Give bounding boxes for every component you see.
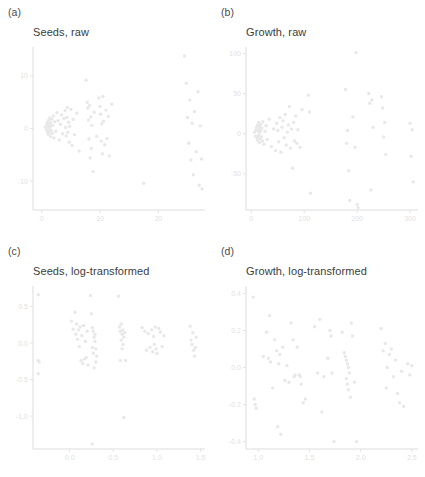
svg-text:300: 300 [404,215,416,222]
svg-text:0: 0 [237,130,241,137]
svg-text:1.0: 1.0 [253,454,263,461]
svg-text:0.2: 0.2 [231,327,241,334]
panel-b-scatter: 100500-500100200300 [246,47,418,210]
panel-c-plot-area: 0.50.0-0.5-1.00.00.51.01.5 [33,286,205,449]
panel-c: (c) Seeds, log-transformed 0.50.0-0.5-1.… [0,239,212,477]
panel-d-title: Growth, log-transformed [246,265,367,277]
svg-text:0: 0 [249,215,253,222]
figure-residual-diagnostics: (a) Seeds, raw 100-1001020 (b) Growth, r… [0,0,425,477]
panel-b-plot-area: 100500-500100200300 [246,47,418,210]
svg-text:0.0: 0.0 [65,454,75,461]
panel-d: (d) Growth, log-transformed 0.40.20.0-0.… [213,239,425,477]
svg-text:-10: -10 [18,178,28,185]
panel-d-tag: (d) [221,245,234,257]
panel-a-plot-area: 100-1001020 [33,47,205,210]
panel-a-tag: (a) [8,6,21,18]
svg-text:0.5: 0.5 [108,454,118,461]
svg-text:1.5: 1.5 [305,454,315,461]
panel-b: (b) Growth, raw 100500-500100200300 [213,0,425,238]
svg-text:-0.4: -0.4 [229,438,241,445]
panel-b-title: Growth, raw [246,26,306,38]
panel-a: (a) Seeds, raw 100-1001020 [0,0,212,238]
svg-text:0: 0 [40,215,44,222]
svg-text:0.4: 0.4 [231,290,241,297]
svg-text:10: 10 [20,72,28,79]
svg-text:0: 0 [24,125,28,132]
svg-text:-0.2: -0.2 [229,401,241,408]
svg-text:0.0: 0.0 [18,340,28,347]
panel-c-scatter: 0.50.0-0.5-1.00.00.51.01.5 [33,286,205,449]
svg-text:-50: -50 [231,170,241,177]
panel-b-tag: (b) [221,6,234,18]
svg-text:-0.5: -0.5 [16,376,28,383]
svg-text:0.5: 0.5 [18,303,28,310]
panel-a-title: Seeds, raw [33,26,89,38]
panel-a-scatter: 100-1001020 [33,47,205,210]
svg-text:100: 100 [229,50,241,57]
svg-text:2.0: 2.0 [356,454,366,461]
svg-text:100: 100 [298,215,310,222]
panel-d-scatter: 0.40.20.0-0.2-0.41.01.52.02.5 [246,286,418,449]
svg-text:200: 200 [351,215,363,222]
panel-c-title: Seeds, log-transformed [33,265,150,277]
svg-text:10: 10 [96,215,104,222]
panel-d-plot-area: 0.40.20.0-0.2-0.41.01.52.02.5 [246,286,418,449]
svg-text:0.0: 0.0 [231,364,241,371]
panel-c-tag: (c) [8,245,21,257]
svg-text:2.5: 2.5 [407,454,417,461]
svg-text:1.0: 1.0 [152,454,162,461]
svg-text:50: 50 [233,90,241,97]
svg-text:20: 20 [154,215,162,222]
svg-text:1.5: 1.5 [196,454,206,461]
svg-text:-1.0: -1.0 [16,413,28,420]
